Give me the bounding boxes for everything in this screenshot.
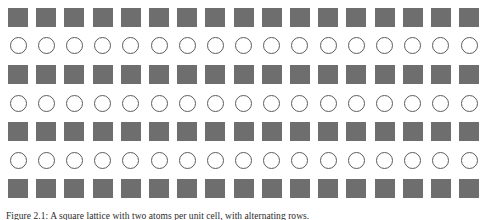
open-circle-icon [291,95,308,112]
lattice-cell-r2-c3 [60,32,88,61]
filled-square-icon [403,8,423,27]
filled-square-icon [36,65,56,84]
lattice-cell-r5-c4 [89,117,117,146]
lattice-cell-r4-c3 [60,89,88,118]
lattice-cell-r5-c9 [230,117,258,146]
lattice-cell-r5-c8 [201,117,229,146]
open-circle-icon [122,95,139,112]
lattice-cell-r2-c17 [455,32,483,61]
lattice-cell-r6-c7 [173,146,201,175]
lattice-cell-r5-c6 [145,117,173,146]
filled-square-icon [346,179,366,198]
filled-square-icon [346,8,366,27]
filled-square-icon [318,65,338,84]
lattice-cell-r2-c11 [286,32,314,61]
lattice-cell-r4-c9 [230,89,258,118]
open-circle-icon [66,152,83,169]
lattice-cell-r7-c9 [230,175,258,204]
filled-square-icon [375,65,395,84]
lattice-cell-r6-c12 [314,146,342,175]
lattice-cell-r1-c3 [60,3,88,32]
filled-square-icon [262,8,282,27]
filled-square-icon [375,8,395,27]
filled-square-icon [262,65,282,84]
open-circle-icon [179,152,196,169]
lattice-cell-r3-c11 [286,60,314,89]
filled-square-icon [64,8,84,27]
lattice-cell-r5-c5 [117,117,145,146]
lattice-cell-r2-c1 [4,32,32,61]
open-circle-icon [10,37,27,54]
lattice-cell-r3-c6 [145,60,173,89]
lattice-cell-r7-c17 [455,175,483,204]
lattice-cell-r7-c10 [258,175,286,204]
open-circle-icon [291,152,308,169]
lattice-cell-r5-c7 [173,117,201,146]
lattice-cell-r4-c17 [455,89,483,118]
filled-square-icon [459,122,479,141]
lattice-cell-r6-c11 [286,146,314,175]
lattice-cell-r5-c1 [4,117,32,146]
open-circle-icon [461,37,478,54]
filled-square-icon [177,65,197,84]
filled-square-icon [121,122,141,141]
filled-square-icon [375,122,395,141]
lattice-cell-r1-c1 [4,3,32,32]
lattice-cell-r7-c15 [399,175,427,204]
filled-square-icon [403,179,423,198]
open-circle-icon [432,37,449,54]
lattice-row-4-circle [0,89,484,118]
filled-square-icon [64,65,84,84]
lattice-cell-r2-c8 [201,32,229,61]
lattice-cell-r2-c12 [314,32,342,61]
filled-square-icon [431,179,451,198]
filled-square-icon [8,179,28,198]
lattice-pattern-grid [0,0,484,208]
open-circle-icon [38,95,55,112]
lattice-row-3-square [0,60,484,89]
filled-square-icon [8,65,28,84]
filled-square-icon [36,179,56,198]
lattice-cell-r5-c3 [60,117,88,146]
filled-square-icon [290,65,310,84]
lattice-cell-r7-c13 [342,175,370,204]
lattice-cell-r6-c17 [455,146,483,175]
lattice-cell-r5-c12 [314,117,342,146]
lattice-cell-r4-c4 [89,89,117,118]
filled-square-icon [93,122,113,141]
lattice-cell-r5-c13 [342,117,370,146]
open-circle-icon [291,37,308,54]
lattice-cell-r7-c2 [32,175,60,204]
open-circle-icon [94,152,111,169]
open-circle-icon [66,95,83,112]
lattice-cell-r6-c3 [60,146,88,175]
lattice-cell-r2-c5 [117,32,145,61]
filled-square-icon [459,179,479,198]
filled-square-icon [205,8,225,27]
open-circle-icon [10,95,27,112]
filled-square-icon [459,8,479,27]
lattice-cell-r2-c7 [173,32,201,61]
filled-square-icon [93,179,113,198]
lattice-cell-r6-c10 [258,146,286,175]
lattice-cell-r2-c4 [89,32,117,61]
lattice-cell-r7-c6 [145,175,173,204]
filled-square-icon [262,179,282,198]
open-circle-icon [376,95,393,112]
lattice-cell-r7-c8 [201,175,229,204]
filled-square-icon [234,179,254,198]
open-circle-icon [207,95,224,112]
lattice-cell-r2-c15 [399,32,427,61]
lattice-cell-r6-c1 [4,146,32,175]
lattice-cell-r7-c16 [427,175,455,204]
open-circle-icon [348,152,365,169]
lattice-cell-r4-c1 [4,89,32,118]
filled-square-icon [36,122,56,141]
lattice-cell-r7-c1 [4,175,32,204]
lattice-cell-r4-c11 [286,89,314,118]
figure-root: Figure 2.1: A square lattice with two at… [0,0,484,220]
filled-square-icon [318,8,338,27]
lattice-row-7-square [0,175,484,204]
filled-square-icon [121,179,141,198]
lattice-cell-r6-c5 [117,146,145,175]
